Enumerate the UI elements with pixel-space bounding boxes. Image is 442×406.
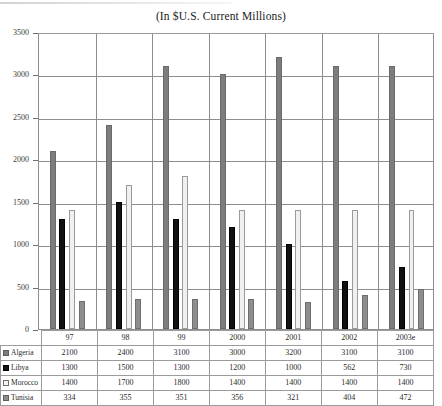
table-cell-algeria-2002: 3100 bbox=[321, 346, 377, 361]
bar-tunisia-99 bbox=[192, 299, 198, 329]
bar-algeria-98 bbox=[106, 125, 112, 329]
table-cell-libya-2000: 1200 bbox=[209, 361, 265, 376]
bar-libya-97 bbox=[59, 219, 65, 329]
series-label-text: Morocco bbox=[11, 378, 38, 387]
bar-tunisia-2003e bbox=[418, 289, 424, 329]
table-header-row: 9798992000200120022003e bbox=[1, 331, 434, 346]
bar-group bbox=[378, 34, 434, 329]
table-row: Tunisia334355351356321404472 bbox=[1, 391, 434, 406]
table-cell-libya-2001: 1000 bbox=[265, 361, 321, 376]
series-label-tunisia: Tunisia bbox=[1, 391, 42, 406]
table-cell-tunisia-98: 355 bbox=[97, 391, 153, 406]
table-column-header-97: 97 bbox=[41, 331, 97, 346]
bar-group bbox=[96, 34, 153, 329]
bar-morocco-97 bbox=[69, 210, 75, 329]
bar-algeria-97 bbox=[50, 151, 56, 329]
series-swatch-tunisia-icon bbox=[3, 395, 9, 401]
table-cell-algeria-2001: 3200 bbox=[265, 346, 321, 361]
table-column-header-2003e: 2003e bbox=[377, 331, 433, 346]
bar-tunisia-2001 bbox=[305, 302, 311, 329]
table-cell-algeria-99: 3100 bbox=[153, 346, 209, 361]
table-column-header-98: 98 bbox=[97, 331, 153, 346]
table-header: 9798992000200120022003e bbox=[1, 331, 434, 346]
bar-series-layer bbox=[39, 34, 433, 329]
table-body: Algeria2100240031003000320031003100Libya… bbox=[1, 346, 434, 406]
bar-algeria-2002 bbox=[333, 66, 339, 329]
bar-tunisia-2000 bbox=[248, 299, 254, 329]
bar-morocco-99 bbox=[182, 176, 188, 329]
table-cell-tunisia-2003e: 472 bbox=[377, 391, 433, 406]
table-cell-algeria-2000: 3000 bbox=[209, 346, 265, 361]
plot-area bbox=[38, 33, 434, 330]
chart-title: (In $U.S. Current Millions) bbox=[0, 10, 442, 22]
bar-tunisia-97 bbox=[79, 301, 85, 329]
table-row: Libya13001500130012001000562730 bbox=[1, 361, 434, 376]
series-label-algeria: Algeria bbox=[1, 346, 42, 361]
table-cell-tunisia-2002: 404 bbox=[321, 391, 377, 406]
bar-algeria-2001 bbox=[276, 57, 282, 329]
bar-libya-2000 bbox=[229, 227, 235, 329]
bar-morocco-2003e bbox=[409, 210, 415, 329]
table-cell-libya-2002: 562 bbox=[321, 361, 377, 376]
bar-morocco-2000 bbox=[239, 210, 245, 329]
table-cell-algeria-98: 2400 bbox=[97, 346, 153, 361]
series-swatch-libya-icon bbox=[3, 365, 9, 371]
bar-group bbox=[152, 34, 209, 329]
table-row: Morocco1400170018001400140014001400 bbox=[1, 376, 434, 391]
y-axis-tick-label: 1500 bbox=[3, 198, 29, 207]
table-cell-morocco-97: 1400 bbox=[41, 376, 97, 391]
table-cell-tunisia-2000: 356 bbox=[209, 391, 265, 406]
bar-group bbox=[39, 34, 96, 329]
table-cell-morocco-2000: 1400 bbox=[209, 376, 265, 391]
table-cell-tunisia-99: 351 bbox=[153, 391, 209, 406]
series-swatch-algeria-icon bbox=[3, 350, 9, 356]
table-cell-libya-98: 1500 bbox=[97, 361, 153, 376]
bar-morocco-2001 bbox=[295, 210, 301, 329]
table-cell-algeria-2003e: 3100 bbox=[377, 346, 433, 361]
bar-group bbox=[322, 34, 379, 329]
table-cell-morocco-2002: 1400 bbox=[321, 376, 377, 391]
bar-algeria-99 bbox=[163, 66, 169, 329]
table-row: Algeria2100240031003000320031003100 bbox=[1, 346, 434, 361]
y-axis-tick-label: 3000 bbox=[3, 70, 29, 79]
table-cell-morocco-2003e: 1400 bbox=[377, 376, 433, 391]
table-cell-morocco-98: 1700 bbox=[97, 376, 153, 391]
table-column-header-2002: 2002 bbox=[321, 331, 377, 346]
y-axis-tick-label: 3500 bbox=[3, 28, 29, 37]
table-cell-libya-99: 1300 bbox=[153, 361, 209, 376]
bar-morocco-98 bbox=[126, 185, 132, 329]
bar-morocco-2002 bbox=[352, 210, 358, 329]
y-axis-tick-label: 2500 bbox=[3, 113, 29, 122]
table-cell-libya-97: 1300 bbox=[41, 361, 97, 376]
bar-libya-99 bbox=[173, 219, 179, 329]
bar-tunisia-98 bbox=[135, 299, 141, 329]
bar-libya-2002 bbox=[342, 281, 348, 329]
bar-tunisia-2002 bbox=[362, 295, 368, 329]
table-cell-algeria-97: 2100 bbox=[41, 346, 97, 361]
table-corner-cell bbox=[1, 331, 42, 346]
table-column-header-2001: 2001 bbox=[265, 331, 321, 346]
table-cell-tunisia-2001: 321 bbox=[265, 391, 321, 406]
table-column-header-99: 99 bbox=[153, 331, 209, 346]
series-label-text: Algeria bbox=[11, 348, 34, 357]
series-label-text: Libya bbox=[11, 363, 29, 372]
bar-libya-98 bbox=[116, 202, 122, 329]
data-table: 9798992000200120022003e Algeria210024003… bbox=[0, 330, 434, 406]
bar-libya-2001 bbox=[286, 244, 292, 329]
bar-algeria-2003e bbox=[389, 66, 395, 329]
table-cell-libya-2003e: 730 bbox=[377, 361, 433, 376]
bar-algeria-2000 bbox=[220, 74, 226, 329]
bar-libya-2003e bbox=[399, 267, 405, 329]
bar-group bbox=[265, 34, 322, 329]
series-label-morocco: Morocco bbox=[1, 376, 42, 391]
y-axis-tick-label: 1000 bbox=[3, 240, 29, 249]
series-swatch-morocco-icon bbox=[3, 380, 9, 386]
table-cell-morocco-2001: 1400 bbox=[265, 376, 321, 391]
table-cell-tunisia-97: 334 bbox=[41, 391, 97, 406]
table-cell-morocco-99: 1800 bbox=[153, 376, 209, 391]
y-axis-tick-label: 2000 bbox=[3, 155, 29, 164]
series-label-libya: Libya bbox=[1, 361, 42, 376]
table-column-header-2000: 2000 bbox=[209, 331, 265, 346]
y-axis-tick-label: 500 bbox=[3, 283, 29, 292]
